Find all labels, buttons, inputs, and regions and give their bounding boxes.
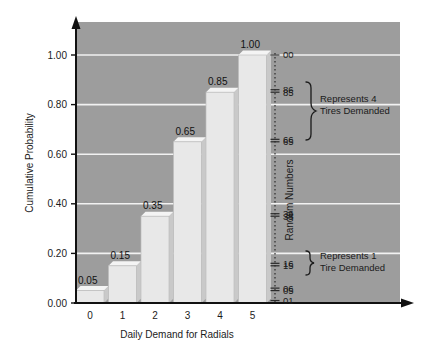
y-tick-label: 0.00	[48, 298, 68, 309]
annotation-lower-line2: Tire Demanded	[320, 262, 385, 273]
y-tick-label: 0.20	[48, 248, 68, 259]
bar-value-label: 1.00	[241, 39, 261, 50]
annotation-upper-line2: Tires Demanded	[320, 105, 390, 116]
bar-side-face	[267, 51, 272, 304]
annotation-lower-line1: Represents 1	[320, 250, 377, 261]
random-numbers-axis-label: Random Numbers	[284, 159, 295, 240]
bar-side-face	[137, 261, 142, 303]
bar-top-face	[239, 51, 272, 56]
bar-value-label: 0.15	[111, 250, 131, 261]
bar-top-face	[206, 88, 239, 93]
bar-top-face	[174, 137, 207, 142]
chart-figure: 0.000.200.400.600.801.00 012345 0.050.15…	[0, 0, 424, 351]
bar	[206, 92, 234, 303]
bar-top-face	[76, 286, 109, 291]
random-number-tick-label: 00	[283, 49, 294, 60]
annotation-upper-line1: Represents 4	[320, 93, 377, 104]
x-tick-label: 2	[152, 310, 158, 321]
bar-side-face	[234, 88, 239, 303]
bar-top-face	[141, 212, 174, 217]
x-axis-title: Daily Demand for Radials	[120, 329, 233, 340]
bar	[141, 216, 169, 303]
random-number-tick-label: 85	[283, 87, 294, 98]
x-tick-label: 1	[120, 310, 126, 321]
bar	[174, 142, 202, 303]
bar	[76, 291, 104, 303]
chart-svg: 0.000.200.400.600.801.00 012345 0.050.15…	[0, 0, 424, 351]
y-tick-label: 1.00	[48, 50, 68, 61]
x-tick-label: 3	[185, 310, 191, 321]
y-tick-label: 0.80	[48, 99, 68, 110]
x-tick-label: 4	[217, 310, 223, 321]
bar-value-label: 0.05	[78, 275, 98, 286]
random-number-tick-label: 01	[283, 295, 294, 306]
bar-value-label: 0.35	[143, 200, 163, 211]
x-tick-label: 5	[250, 310, 256, 321]
y-tick-label: 0.40	[48, 198, 68, 209]
y-tick-label: 0.60	[48, 149, 68, 160]
x-tick-label: 0	[87, 310, 93, 321]
bar-value-label: 0.85	[208, 76, 228, 87]
random-number-tick-label: 15	[283, 260, 294, 271]
bar	[109, 266, 137, 303]
bar-side-face	[202, 137, 207, 303]
y-axis-title: Cumulative Probability	[24, 113, 35, 213]
bar-top-face	[109, 261, 142, 266]
bar-value-label: 0.65	[176, 126, 196, 137]
random-number-tick-label: 65	[283, 136, 294, 147]
bar	[239, 55, 267, 303]
bar-side-face	[169, 212, 174, 303]
